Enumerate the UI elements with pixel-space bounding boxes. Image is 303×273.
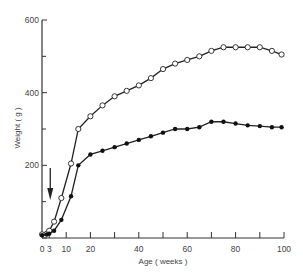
data-point-open <box>257 45 262 50</box>
series-line-open-circles <box>42 47 282 234</box>
data-point-open <box>52 219 57 224</box>
data-point-filled <box>233 121 237 125</box>
data-point-open <box>279 52 284 57</box>
data-point-filled <box>40 233 44 237</box>
data-point-open <box>76 126 81 131</box>
data-point-filled <box>279 125 283 129</box>
data-point-filled <box>246 123 250 127</box>
data-point-filled <box>149 134 153 138</box>
data-point-open <box>136 83 141 88</box>
chart-container: 200400600031020406080100Age ( weeks )Wei… <box>0 0 303 273</box>
data-point-open <box>59 195 64 200</box>
data-point-filled <box>209 120 213 124</box>
y-axis-title: Weight ( g ) <box>13 107 22 149</box>
data-point-filled <box>76 163 80 167</box>
data-point-filled <box>258 124 262 128</box>
arrow-down-icon <box>47 188 53 200</box>
data-point-filled <box>137 138 141 142</box>
data-point-open <box>100 103 105 108</box>
data-point-filled <box>100 149 104 153</box>
data-point-open <box>68 161 73 166</box>
x-tick-label: 10 <box>61 244 71 254</box>
x-tick-label: 20 <box>86 244 96 254</box>
series-line-filled-circles <box>42 122 282 235</box>
data-point-open <box>148 76 153 81</box>
data-point-filled <box>112 145 116 149</box>
x-tick-label: 80 <box>231 244 241 254</box>
y-tick-label: 400 <box>25 88 39 98</box>
data-point-open <box>173 61 178 66</box>
x-axis-title: Age ( weeks ) <box>139 257 188 266</box>
data-point-open <box>112 94 117 99</box>
line-chart: 200400600031020406080100Age ( weeks )Wei… <box>0 0 303 273</box>
data-point-open <box>209 48 214 53</box>
data-point-filled <box>161 130 165 134</box>
x-tick-label: 40 <box>134 244 144 254</box>
data-point-filled <box>59 218 63 222</box>
x-tick-label: 0 <box>40 244 45 254</box>
data-point-filled <box>69 194 73 198</box>
x-tick-label: 3 <box>47 244 52 254</box>
data-point-filled <box>185 127 189 131</box>
data-point-open <box>245 45 250 50</box>
data-point-filled <box>173 127 177 131</box>
y-tick-label: 200 <box>25 160 39 170</box>
data-point-open <box>221 45 226 50</box>
data-point-filled <box>221 120 225 124</box>
data-point-open <box>185 57 190 62</box>
data-point-filled <box>197 125 201 129</box>
data-point-filled <box>125 141 129 145</box>
data-point-open <box>160 66 165 71</box>
data-point-open <box>233 45 238 50</box>
x-tick-label: 60 <box>182 244 192 254</box>
data-point-open <box>269 48 274 53</box>
data-point-filled <box>47 231 51 235</box>
data-point-open <box>124 88 129 93</box>
data-point-open <box>197 54 202 59</box>
data-point-filled <box>52 229 56 233</box>
x-tick-label: 100 <box>277 244 291 254</box>
data-point-filled <box>270 125 274 129</box>
data-point-filled <box>88 152 92 156</box>
data-point-open <box>88 114 93 119</box>
y-tick-label: 600 <box>25 15 39 25</box>
